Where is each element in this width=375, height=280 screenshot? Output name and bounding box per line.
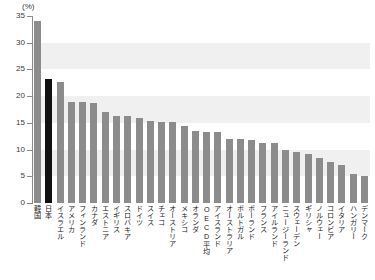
y-axis-tick (27, 123, 33, 124)
y-axis-tick-label: 30 (3, 39, 25, 47)
x-axis-label: フランス (259, 205, 267, 233)
x-axis-label: ポーランド (248, 205, 256, 240)
y-axis-tick (27, 96, 33, 97)
x-axis-label: 日本 (45, 205, 53, 219)
x-axis-label: オーストラリア (225, 205, 233, 254)
bar-highlighted (45, 79, 52, 203)
x-axis-label: OECD平均 (203, 205, 211, 255)
x-axis-label: オーストリア (169, 205, 177, 247)
bar (136, 118, 143, 203)
y-axis-tick-label: 15 (3, 119, 25, 127)
bar (305, 154, 312, 203)
bar (203, 132, 210, 203)
x-axis-label: ハンガリー (349, 205, 357, 240)
x-axis-label: スウェーデン (293, 205, 301, 247)
y-axis-labels: 05101520253035 (0, 0, 25, 280)
bar (293, 152, 300, 203)
bar (282, 150, 289, 203)
y-axis-tick-label: 35 (3, 12, 25, 20)
y-axis-tick (27, 43, 33, 44)
y-axis-tick-label: 0 (3, 199, 25, 207)
bar (57, 82, 64, 203)
x-axis-labels: 韓国日本イスラエルアメリカフィンランドカナダエストニアイギリススロバキアドイツス… (32, 205, 370, 280)
bar (214, 132, 221, 203)
bar (181, 126, 188, 203)
x-axis-label: フィンランド (79, 205, 87, 247)
x-axis-label: ニュージーランド (282, 205, 290, 261)
bar (34, 21, 41, 203)
x-axis-label: デンマーク (360, 205, 368, 240)
bar (102, 112, 109, 203)
x-axis-label: イタリア (338, 205, 346, 233)
y-axis-tick (27, 16, 33, 17)
x-axis-label: チェコ (158, 205, 166, 226)
x-axis-label: コロンビア (327, 205, 335, 240)
x-axis-label: アメリカ (67, 205, 75, 233)
y-axis-tick (27, 176, 33, 177)
x-axis-label: カナダ (90, 205, 98, 226)
bar (226, 139, 233, 203)
bar (158, 122, 165, 203)
x-axis-label: 韓国 (34, 205, 42, 219)
bar (169, 122, 176, 203)
bar (259, 143, 266, 203)
x-axis-label: イギリス (113, 205, 121, 233)
y-axis-tick (27, 150, 33, 151)
x-axis-label: スロバキア (124, 205, 132, 240)
y-axis-tick-label: 20 (3, 92, 25, 100)
bar (68, 102, 75, 204)
x-axis-label: オランダ (191, 205, 199, 233)
y-axis-tick (27, 69, 33, 70)
x-axis-label: ポルトガル (236, 205, 244, 240)
y-axis-tick (27, 203, 33, 204)
bar (192, 131, 199, 203)
bar (271, 143, 278, 203)
bar (124, 116, 131, 203)
bar (90, 103, 97, 203)
x-axis-label: イスラエル (56, 205, 64, 240)
y-axis-tick-label: 10 (3, 146, 25, 154)
x-axis-label: ドイツ (135, 205, 143, 226)
bar (79, 102, 86, 204)
x-axis-label: アイスランド (214, 205, 222, 247)
x-axis-label: スイス (146, 205, 154, 226)
x-axis-label: メキシコ (180, 205, 188, 233)
bar (338, 165, 345, 203)
x-axis-label: アイルランド (270, 205, 278, 247)
bar (248, 140, 255, 203)
bar (237, 139, 244, 203)
bars-container (32, 16, 370, 203)
x-axis-label: エストニア (101, 205, 109, 240)
y-axis-tick-label: 5 (3, 172, 25, 180)
bar (316, 158, 323, 203)
bar (147, 121, 154, 203)
y-axis-tick-label: 25 (3, 65, 25, 73)
bar (113, 116, 120, 203)
bar-chart: (%) 05101520253035 韓国日本イスラエルアメリカフィンランドカナ… (0, 0, 375, 280)
x-axis-label: ギリシャ (304, 205, 312, 233)
x-axis-label: ノルウェー (315, 205, 323, 240)
bar (327, 162, 334, 203)
bar (361, 176, 368, 203)
bar (350, 174, 357, 203)
